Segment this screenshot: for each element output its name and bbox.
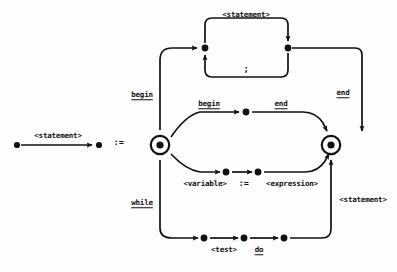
variable-after-node [223, 169, 230, 176]
test-after-node [241, 235, 248, 242]
while-label: while [131, 199, 153, 207]
lhs-statement-label: <statement> [34, 132, 81, 140]
while-first-node [201, 235, 208, 242]
test-label: <test> [211, 246, 237, 254]
end-inner-label: end [275, 100, 288, 108]
loop-right-node [285, 45, 292, 52]
syntax-diagram: dot ===== --> [0, 0, 397, 272]
begin-after-node [243, 109, 250, 116]
node-dots [14, 45, 292, 242]
terminal-nodes [151, 136, 340, 154]
semicolon-label: ; [243, 65, 248, 74]
end-outer-label: end [337, 89, 350, 97]
assign-symbol-label: := [239, 180, 250, 188]
end-outer-path [292, 48, 362, 131]
begin-outer-path [160, 48, 197, 130]
variable-label: <variable> [183, 180, 226, 188]
expression-path [264, 154, 329, 172]
lhs-start-node [14, 142, 20, 148]
variable-path [171, 154, 220, 172]
top-loop-forward-path [205, 18, 288, 43]
defines-symbol-label: := [114, 139, 125, 147]
begin-inner-label: begin [198, 100, 220, 108]
begin-outer-label: begin [131, 91, 153, 99]
assign-after-node [255, 169, 262, 176]
entry-node [156, 141, 163, 148]
top-statement-label: <statement> [222, 11, 269, 19]
end-inner-path [252, 112, 327, 131]
begin-inner-path [171, 112, 239, 137]
expression-label: <expression> [266, 180, 318, 188]
exit-node [327, 141, 334, 148]
while-path [160, 160, 198, 238]
statement-return-label: <statement> [339, 196, 386, 204]
lhs-end-node [96, 142, 102, 148]
do-label: do [255, 246, 264, 254]
loop-left-node [202, 45, 209, 52]
do-after-node [281, 235, 288, 242]
